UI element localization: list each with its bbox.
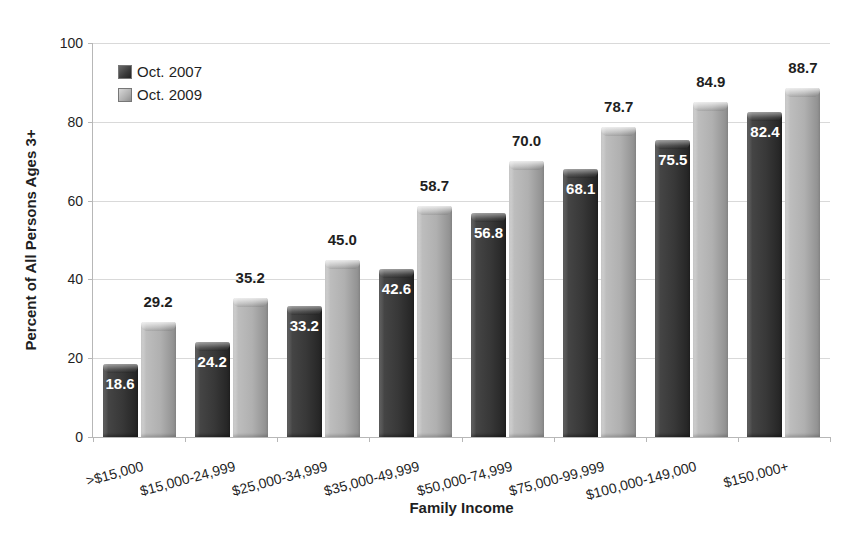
y-tick-label-40: 40 <box>43 271 83 287</box>
bar-oct2007-8 <box>747 112 782 437</box>
legend-item-oct-2009: Oct. 2009 <box>118 83 202 106</box>
y-tick-label-0: 0 <box>43 429 83 445</box>
bar-oct2007-5 <box>471 213 506 437</box>
bar-value-oct2007-2: 24.2 <box>189 354 235 370</box>
x-tick-mark-3 <box>369 437 370 442</box>
bar-oct2009-2 <box>233 298 268 437</box>
y-axis-title: Percent of All Persons Ages 3+ <box>22 129 39 350</box>
bar-value-oct2009-8: 88.7 <box>780 60 826 76</box>
y-tick-mark-100 <box>88 43 92 44</box>
bar-oct2009-3 <box>325 260 360 437</box>
bar-oct2009-4 <box>417 206 452 437</box>
x-tick-mark-8 <box>830 437 831 442</box>
y-tick-label-60: 60 <box>43 193 83 209</box>
bar-value-oct2007-4: 42.6 <box>373 281 419 297</box>
bar-oct2009-1 <box>141 322 176 437</box>
y-tick-label-20: 20 <box>43 350 83 366</box>
x-tick-mark-0 <box>93 437 94 442</box>
bar-value-oct2009-1: 29.2 <box>135 294 181 310</box>
bar-value-oct2009-3: 45.0 <box>319 232 365 248</box>
y-tick-mark-80 <box>88 122 92 123</box>
y-tick-label-80: 80 <box>43 114 83 130</box>
bar-value-oct2007-8: 82.4 <box>742 124 788 140</box>
bar-value-oct2009-5: 70.0 <box>504 133 550 149</box>
y-tick-mark-60 <box>88 201 92 202</box>
x-tick-mark-6 <box>646 437 647 442</box>
bar-oct2009-7 <box>693 102 728 437</box>
x-tick-mark-5 <box>554 437 555 442</box>
y-tick-mark-20 <box>88 358 92 359</box>
gridline-100 <box>93 43 830 44</box>
bar-value-oct2007-1: 18.6 <box>97 376 143 392</box>
bar-value-oct2009-4: 58.7 <box>411 178 457 194</box>
x-tick-mark-7 <box>738 437 739 442</box>
y-tick-mark-0 <box>88 437 92 438</box>
legend-swatch-oct-2007 <box>118 65 132 79</box>
legend-label-oct-2007: Oct. 2007 <box>137 63 202 80</box>
x-tick-mark-2 <box>277 437 278 442</box>
bar-oct2007-7 <box>655 140 690 437</box>
y-tick-mark-40 <box>88 279 92 280</box>
x-tick-mark-4 <box>462 437 463 442</box>
bar-oct2009-5 <box>509 161 544 437</box>
legend-item-oct-2007: Oct. 2007 <box>118 60 202 83</box>
legend-swatch-oct-2009 <box>118 88 132 102</box>
y-tick-label-100: 100 <box>43 35 83 51</box>
bar-value-oct2007-3: 33.2 <box>281 318 327 334</box>
bar-oct2009-8 <box>785 88 820 437</box>
x-axis-line <box>88 437 830 438</box>
bar-value-oct2009-2: 35.2 <box>227 270 273 286</box>
bar-oct2007-6 <box>563 169 598 437</box>
bar-chart: Percent of All Persons Ages 3+ Oct. 2007… <box>0 0 868 554</box>
y-axis-line <box>92 43 93 438</box>
bar-value-oct2009-6: 78.7 <box>596 99 642 115</box>
bar-value-oct2009-7: 84.9 <box>688 74 734 90</box>
x-tick-mark-1 <box>185 437 186 442</box>
bar-value-oct2007-7: 75.5 <box>650 152 696 168</box>
bar-oct2009-6 <box>601 127 636 437</box>
legend: Oct. 2007 Oct. 2009 <box>118 60 202 106</box>
bar-value-oct2007-6: 68.1 <box>558 181 604 197</box>
legend-label-oct-2009: Oct. 2009 <box>137 86 202 103</box>
bar-value-oct2007-5: 56.8 <box>466 225 512 241</box>
